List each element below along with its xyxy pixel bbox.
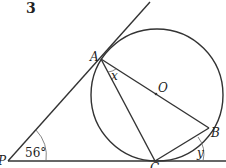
label-o: O bbox=[158, 81, 168, 95]
chord-ac bbox=[101, 59, 155, 161]
label-b: B bbox=[210, 126, 220, 140]
angle-label-y: y bbox=[196, 146, 204, 160]
question-number: 3 bbox=[26, 0, 36, 16]
label-a: A bbox=[89, 50, 99, 64]
label-c: C bbox=[150, 161, 159, 168]
label-p: P bbox=[0, 154, 7, 168]
angle-label-x: x bbox=[111, 69, 118, 83]
angle-label-p: 56° bbox=[25, 146, 46, 160]
tangent-line-pa bbox=[8, 2, 150, 161]
centre-point bbox=[155, 93, 158, 96]
geometry-figure: 3 A B C O P 56° x y bbox=[0, 0, 226, 168]
circle-tangent-diagram: 3 A B C O P 56° x y bbox=[0, 0, 226, 168]
